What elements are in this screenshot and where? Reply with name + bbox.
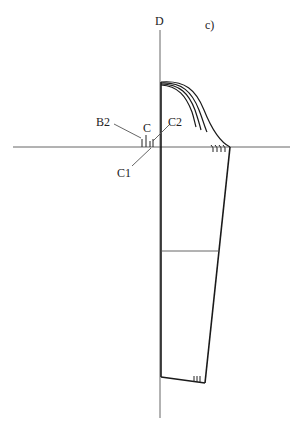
bicep-notch-marks <box>211 145 225 152</box>
sleeve-hem-line <box>161 377 205 383</box>
label-c1: C1 <box>117 166 131 180</box>
panel-label: c) <box>205 18 214 32</box>
label-c: C <box>143 121 151 135</box>
label-c2: C2 <box>168 115 182 129</box>
axis-label-d: D <box>155 14 164 28</box>
leader-b2 <box>114 124 141 138</box>
sleeve-right-seam <box>205 147 230 383</box>
leader-c1 <box>132 148 151 166</box>
label-b2: B2 <box>96 115 110 129</box>
c-point-tick-marks <box>142 135 153 147</box>
sleeve-pattern-diagram: D c) B2 C C2 C1 <box>0 0 300 426</box>
